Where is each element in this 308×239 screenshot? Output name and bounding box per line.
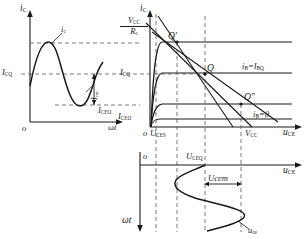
middle-iceo-label: ICEO — [118, 112, 131, 121]
left-icq-label: ICQ — [2, 68, 12, 77]
left-origin-label: o — [22, 124, 26, 133]
middle-q-prime-label: Q′ — [168, 32, 177, 42]
middle-y-axis-label: iC — [140, 4, 147, 14]
point-q-double-prime — [239, 102, 242, 105]
bottom-x-axis-arrow — [295, 162, 302, 168]
middle-x-axis-label: uCE — [283, 128, 295, 138]
figure-root: iC ic ICQ ICEO o ωt Icm iC VCC Rc ICQ IC… — [0, 0, 308, 239]
middle-ib-zero-label: iB=0 — [253, 110, 269, 119]
rc-denominator: Rc — [120, 26, 148, 37]
bottom-origin-label: o — [143, 152, 147, 161]
left-x-axis-label: ωt — [108, 123, 116, 132]
left-ic-leader — [51, 33, 62, 44]
bottom-x-axis-label: uCE — [283, 166, 295, 176]
middle-uces-label: UCES — [150, 129, 166, 138]
middle-q-double-prime-label: Q″ — [244, 93, 255, 103]
vcc-numerator: VCC — [120, 16, 148, 26]
middle-curve-ib-ibq — [151, 42, 292, 127]
bottom-uceq-label: UCEQ — [186, 152, 203, 161]
middle-curve-iceo — [151, 119, 293, 127]
left-icm-label: Icm — [90, 91, 99, 100]
bottom-y-axis-label: ωt — [122, 216, 131, 226]
left-icm-arrow-down — [92, 100, 96, 105]
middle-ib-ibq-label: iB=IBQ — [242, 62, 264, 71]
middle-plot-group — [140, 10, 302, 232]
middle-y-max-label: VCC Rc — [120, 16, 148, 36]
middle-q-label: Q — [207, 64, 214, 74]
bottom-uce-label: uce — [248, 226, 257, 235]
bottom-plot-group — [137, 152, 302, 232]
middle-x-axis-arrow — [295, 124, 302, 130]
bottom-y-axis-arrow — [137, 225, 143, 232]
middle-y-axis-arrow — [147, 10, 153, 17]
figure-canvas — [0, 0, 308, 239]
bottom-ucem-label: Ucem — [208, 174, 228, 183]
middle-icq-label: ICQ — [120, 68, 130, 77]
middle-curve-ib-zero — [151, 104, 292, 127]
left-ic-label: ic — [61, 25, 66, 34]
left-y-axis-label: iC — [20, 4, 27, 14]
middle-vcc-label: VCC — [245, 129, 257, 138]
left-y-axis-arrow — [27, 10, 33, 17]
middle-origin-label: o — [143, 129, 147, 138]
left-iceo-label: ICEO — [98, 106, 111, 115]
